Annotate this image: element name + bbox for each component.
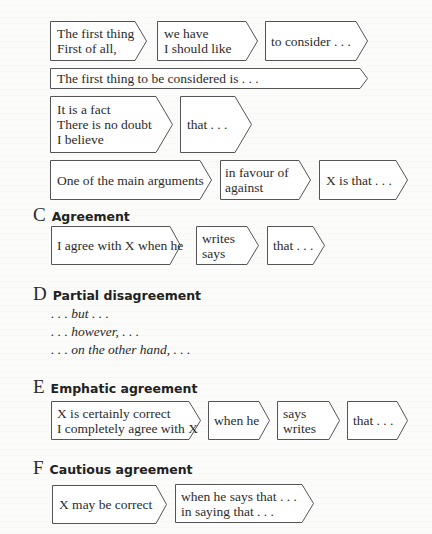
phrase-line: X may be correct [59,497,152,512]
phrase-line: says [283,406,316,421]
phrase-box-when-he-says-that: when he says that . . .in saying that . … [175,484,314,523]
phrase-box-that: that . . . [347,401,408,440]
phrase-line: says [202,246,235,261]
phrase-box-when-he: when he [208,401,270,440]
phrase-line: that . . . [273,238,314,253]
phrase-line: that . . . [353,413,394,428]
phrase-box-i-agree: I agree with X when he [51,226,181,265]
phrase-line: when he [214,413,259,428]
section-letter: C [33,204,46,226]
phrase-box-that: that . . . [267,226,325,265]
phrase-line: The first thing [57,26,134,41]
phrase-line: First of all, [57,41,134,56]
section-title: Partial disagreement [53,288,201,303]
phrase-line: It is a fact [57,102,152,117]
phrase-box-that: that . . . [180,96,252,153]
section-title: Agreement [52,209,130,224]
phrase-line: I should like [164,41,232,56]
phrase-line: The first thing to be considered is . . … [57,71,259,86]
phrase-line: in saying that . . . [181,504,297,519]
section-letter: F [33,457,44,479]
phrase-item: . . . but . . . [51,305,191,323]
phrase-line: I agree with X when he [57,238,183,253]
phrase-line: I completely agree with X [57,421,198,436]
phrase-item: . . . however, . . . [51,323,191,341]
phrase-line: that . . . [187,117,228,132]
phrase-line: X is that . . . [326,173,392,188]
phrase-line: There is no doubt [57,117,152,132]
phrase-list: . . . but . . . . . . however, . . . . .… [51,305,191,359]
phrase-line: to consider . . . [271,34,351,49]
section-title: Emphatic agreement [51,381,198,396]
phrase-box-in-favour-of: in favour ofagainst [220,160,311,200]
phrase-line: when he says that . . . [181,489,297,504]
phrase-box-it-is-a-fact: It is a factThere is no doubtI believe [50,96,173,153]
phrase-box-x-is-that: X is that . . . [319,160,408,200]
phrase-box-main-arguments: One of the main arguments [50,160,212,200]
section-heading-agreement: C Agreement [33,204,130,226]
phrase-item: . . . on the other hand, . . . [51,341,191,359]
phrase-line: we have [164,26,232,41]
section-title: Cautious agreement [50,462,193,477]
section-letter: D [33,283,47,305]
phrase-box-says-writes: sayswrites [277,401,340,440]
phrase-line: against [225,180,289,195]
phrase-box-may-be-correct: X may be correct [52,485,167,524]
phrase-box-we-have: we haveI should like [157,21,258,61]
phrase-box-first-thing: The first thingFirst of all, [50,21,147,61]
phrase-box-certainly-correct: X is certainly correctI completely agree… [51,401,201,440]
phrase-line: X is certainly correct [57,406,198,421]
section-heading-partial-disagreement: D Partial disagreement [33,283,201,305]
section-letter: E [33,376,45,398]
phrase-box-first-thing-considered: The first thing to be considered is . . … [50,68,368,89]
phrase-line: in favour of [225,165,289,180]
phrase-line: I believe [57,132,152,147]
phrase-line: writes [202,231,235,246]
section-heading-emphatic-agreement: E Emphatic agreement [33,376,197,398]
phrase-box-to-consider: to consider . . . [265,21,368,61]
section-heading-cautious-agreement: F Cautious agreement [33,457,193,479]
phrase-box-writes-says: writessays [196,226,259,265]
phrase-line: writes [283,421,316,436]
phrase-line: One of the main arguments [57,173,204,188]
